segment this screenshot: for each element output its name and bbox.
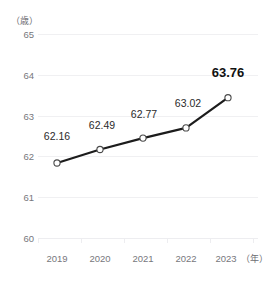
data-label-2023: 63.76 (212, 65, 245, 80)
y-tick-label-65: 65 (23, 29, 34, 40)
x-tick-label-2020: 2020 (89, 253, 110, 264)
y-tick-label-64: 64 (23, 70, 34, 81)
data-label-2019: 62.16 (44, 130, 70, 142)
data-point-2023[interactable] (225, 95, 231, 101)
data-point-2020[interactable] (97, 146, 103, 152)
x-tick-label-2021: 2021 (132, 253, 153, 264)
x-tick-label-2019: 2019 (46, 253, 67, 264)
data-label-2020: 62.49 (89, 119, 115, 131)
data-point-2019[interactable] (54, 160, 60, 166)
y-tick-label-62: 62 (23, 151, 34, 162)
x-axis-tickmarks (39, 239, 254, 244)
y-tick-label-61: 61 (23, 192, 34, 203)
x-tick-label-2022: 2022 (175, 253, 196, 264)
data-point-2022[interactable] (183, 125, 189, 131)
y-axis-tick-labels: 65 64 63 62 61 60 (23, 29, 34, 244)
y-axis-unit-label: （歳） (11, 15, 38, 26)
x-axis-unit-label: （年） (241, 253, 268, 264)
x-tick-label-2023: 2023 (215, 253, 236, 264)
y-tick-label-60: 60 (23, 233, 34, 244)
y-tick-label-63: 63 (23, 111, 34, 122)
data-point-2021[interactable] (140, 135, 146, 141)
chart-canvas: （歳） 65 64 63 62 61 60 62.16 62.49 62.77 … (0, 0, 270, 282)
line-chart: （歳） 65 64 63 62 61 60 62.16 62.49 62.77 … (0, 0, 270, 282)
data-label-2021: 62.77 (131, 108, 157, 120)
x-axis-tick-labels: 2019 2020 2021 2022 2023 （年） (46, 253, 268, 264)
data-point-labels: 62.16 62.49 62.77 63.02 63.76 (44, 65, 244, 142)
data-label-2022: 63.02 (175, 97, 201, 109)
